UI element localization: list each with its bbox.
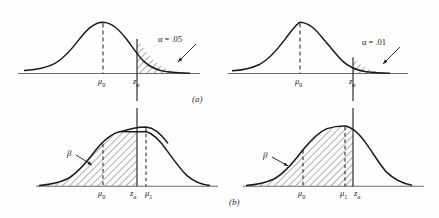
mu0-label-bottom-right: μ0 — [298, 188, 305, 200]
mu0-subscript-bottom-left: 0 — [102, 194, 105, 200]
alpha-leader-top-left — [178, 44, 196, 62]
alpha-value-label-top-left: α = .05 — [158, 34, 182, 44]
normal-curve-top-right — [232, 22, 390, 73]
panel-bottom-left — [36, 108, 218, 186]
zalpha-label-top-left: zα — [133, 76, 139, 88]
mu1-subscript-bottom-left: 1 — [149, 194, 152, 200]
beta-leader-bottom-right — [272, 157, 288, 166]
mu0-label-top-right: μ0 — [295, 76, 302, 88]
mu0-subscript-top-left: 0 — [102, 82, 105, 88]
zalpha-subscript-top-right: α — [352, 82, 355, 88]
alpha-region-top-left — [137, 39, 188, 73]
alpha-value-label-top-right: α = .01 — [362, 37, 386, 47]
panel-bottom-right — [243, 108, 424, 186]
alpha-region-top-right — [353, 58, 388, 74]
figure-canvas — [0, 0, 439, 218]
mu1-label-bottom-left: μ1 — [145, 188, 152, 200]
mu0-label-bottom-left: μ0 — [98, 188, 105, 200]
zalpha-label-top-right: zα — [349, 76, 355, 88]
beta-label-bottom-left: β — [67, 148, 71, 158]
mu0-label-top-left: μ0 — [98, 76, 105, 88]
panel-top-right — [228, 22, 408, 101]
normal-curve-top-left — [24, 22, 190, 73]
alpha-leader-top-right — [383, 47, 400, 64]
caption-b: (b) — [229, 197, 240, 207]
zalpha-subscript-bottom-left: α — [133, 194, 136, 200]
mu0-subscript-top-right: 0 — [299, 82, 302, 88]
zalpha-subscript-bottom-right: α — [357, 194, 360, 200]
mu0-subscript-bottom-right: 0 — [302, 194, 305, 200]
caption-a: (a) — [192, 94, 203, 104]
beta-label-bottom-right: β — [263, 150, 267, 160]
mu1-subscript-bottom-right: 1 — [344, 194, 347, 200]
zalpha-subscript-top-left: α — [136, 82, 139, 88]
mu1-label-bottom-right: μ1 — [340, 188, 347, 200]
statistics-figure: α = .05 μ0 zα α = .01 μ0 zα β μ0 zα μ1 β… — [0, 0, 439, 218]
zalpha-label-bottom-right: zα — [354, 188, 360, 200]
zalpha-label-bottom-left: zα — [130, 188, 136, 200]
